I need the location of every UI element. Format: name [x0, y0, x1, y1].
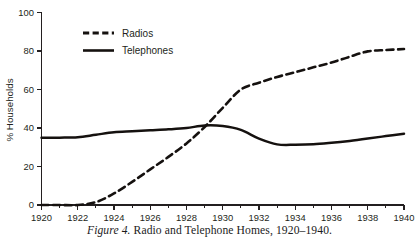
legend-label-radios: Radios	[122, 28, 153, 39]
chart-legend: RadiosTelephones	[83, 28, 173, 57]
x-tick-group: 1920192219241926192819301932193419361938…	[31, 205, 414, 222]
y-tick-group: 020406080100	[18, 7, 41, 211]
line-chart: 020406080100 192019221924192619281930193…	[0, 0, 419, 222]
x-tick-label: 1922	[67, 212, 88, 223]
x-tick-label: 1930	[212, 212, 233, 223]
figure-caption: Figure 4. Radio and Telephone Homes, 192…	[0, 224, 419, 237]
x-tick-label: 1940	[394, 212, 415, 223]
series-group	[42, 49, 405, 205]
y-tick-label: 0	[29, 199, 34, 210]
x-tick-label: 1920	[31, 212, 52, 223]
legend-label-telephones: Telephones	[122, 45, 173, 56]
x-tick-label: 1936	[321, 212, 342, 223]
y-axis-title: % Households	[4, 78, 15, 141]
y-tick-label: 80	[24, 45, 34, 56]
x-tick-label: 1932	[249, 212, 270, 223]
x-tick-label: 1934	[285, 212, 306, 223]
chart-plot-area: 020406080100 192019221924192619281930193…	[0, 0, 419, 222]
y-tick-label: 60	[24, 84, 34, 95]
y-tick-label: 40	[24, 122, 34, 133]
x-tick-label: 1928	[176, 212, 197, 223]
y-tick-label: 20	[24, 161, 34, 172]
figure-caption-text: Radio and Telephone Homes, 1920–1940.	[131, 224, 332, 237]
x-tick-label: 1938	[357, 212, 378, 223]
y-tick-label: 100	[18, 7, 34, 18]
x-tick-label: 1926	[140, 212, 161, 223]
figure-caption-label: Figure 4.	[87, 224, 131, 237]
x-tick-label: 1924	[104, 212, 125, 223]
figure-container: 020406080100 192019221924192619281930193…	[0, 0, 419, 247]
series-line-telephones	[42, 125, 405, 145]
